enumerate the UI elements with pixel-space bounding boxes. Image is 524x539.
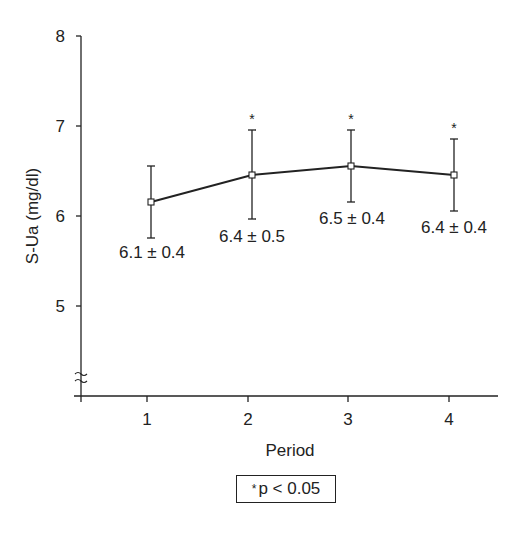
- data-point-2: [249, 172, 255, 178]
- data-point-1: [148, 199, 154, 205]
- error-bars: [147, 130, 458, 238]
- value-label: 6.4 ± 0.4: [421, 218, 487, 237]
- star-icon: *: [252, 482, 257, 496]
- star-icon: *: [348, 111, 354, 127]
- value-label: 6.4 ± 0.5: [219, 227, 285, 246]
- x-tick-label: 1: [142, 410, 151, 429]
- x-tick-label: 4: [444, 410, 453, 429]
- data-markers: [148, 163, 457, 205]
- y-tick-label: 8: [56, 27, 65, 46]
- chart-canvas: 5 6 7 8 1 2 3 4 Period S-Ua (mg/dl): [0, 0, 524, 539]
- significance-legend: * p < 0.05: [236, 475, 336, 503]
- x-ticks: 1 2 3 4: [142, 396, 453, 429]
- y-axis-title: S-Ua (mg/dl): [23, 168, 42, 264]
- x-axis-title: Period: [265, 441, 314, 460]
- series-line: [151, 166, 454, 202]
- significance-stars: * * *: [249, 111, 457, 136]
- x-tick-label: 3: [343, 410, 352, 429]
- star-icon: *: [249, 111, 255, 127]
- y-ticks: 5 6 7 8: [56, 27, 81, 316]
- value-label: 6.1 ± 0.4: [119, 243, 185, 262]
- data-point-4: [451, 172, 457, 178]
- y-tick-label: 5: [56, 297, 65, 316]
- star-icon: *: [451, 120, 457, 136]
- data-point-3: [348, 163, 354, 169]
- value-label: 6.5 ± 0.4: [319, 209, 385, 228]
- y-tick-label: 6: [56, 207, 65, 226]
- legend-text: p < 0.05: [258, 479, 320, 499]
- y-tick-label: 7: [56, 117, 65, 136]
- x-tick-label: 2: [243, 410, 252, 429]
